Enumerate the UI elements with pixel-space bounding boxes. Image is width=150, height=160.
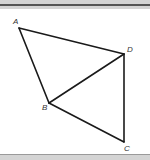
segment-ad (19, 28, 124, 54)
segment-ab (19, 28, 49, 103)
label-c: C (124, 144, 130, 153)
label-d: D (127, 45, 133, 54)
label-b: B (42, 103, 48, 112)
label-a: A (12, 17, 18, 26)
segment-bc (49, 103, 124, 142)
quadrilateral-diagram: A D B C (0, 0, 150, 160)
segment-bd (49, 54, 124, 103)
vertex-labels: A D B C (12, 17, 133, 153)
segments (19, 28, 124, 142)
